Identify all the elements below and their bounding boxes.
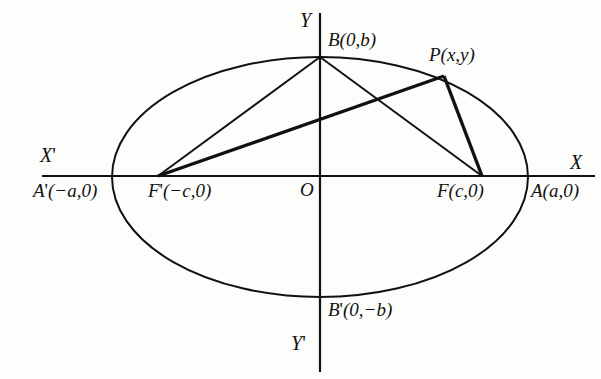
axis-label-x-negative-prime: ' xyxy=(52,144,56,166)
point-label-p-coords: (x,y) xyxy=(441,44,475,65)
point-label-b: B(0,b) xyxy=(328,30,376,49)
point-label-focus-f-coords: (c,0) xyxy=(449,180,484,201)
point-label-vertex-a-letter: A xyxy=(531,180,543,201)
axis-label-y-negative-prime: ' xyxy=(302,332,306,354)
point-label-focus-f-prime-letter: F xyxy=(148,180,160,201)
axis-label-x-negative-letter: X xyxy=(40,144,52,166)
point-label-b-coords: (0,b) xyxy=(340,29,376,50)
point-label-b-prime: B'(0,−b) xyxy=(328,300,392,319)
point-label-b-prime-coords: (0,−b) xyxy=(343,299,392,320)
point-label-origin: O xyxy=(300,180,314,199)
point-label-b-prime-letter: B xyxy=(328,299,340,320)
ellipse-figure: Y Y' X X' O B(0,b) B'(0,−b) P(x,y) F(c,0… xyxy=(0,0,601,379)
segment-fprime-to-b xyxy=(158,57,320,176)
axis-label-x-negative: X' xyxy=(40,145,56,165)
axis-label-y-positive: Y xyxy=(300,10,311,30)
point-label-b-letter: B xyxy=(328,29,340,50)
point-label-vertex-a-prime-coords: (−a,0) xyxy=(48,180,97,201)
point-label-focus-f-prime-coords: (−c,0) xyxy=(163,180,211,201)
point-label-p-letter: P xyxy=(429,44,441,65)
point-label-p: P(x,y) xyxy=(429,45,475,64)
point-label-vertex-a: A(a,0) xyxy=(531,181,579,200)
point-label-vertex-a-prime: A'(−a,0) xyxy=(33,181,97,200)
point-label-focus-f-prime: F'(−c,0) xyxy=(148,181,211,200)
axis-label-y-negative-letter: Y xyxy=(291,332,302,354)
point-label-vertex-a-coords: (a,0) xyxy=(543,180,579,201)
axis-label-x-positive: X xyxy=(570,152,582,172)
point-label-focus-f-letter: F xyxy=(437,180,449,201)
point-label-vertex-a-prime-letter: A xyxy=(33,180,45,201)
segment-fprime-to-p xyxy=(158,76,444,176)
axis-label-y-negative: Y' xyxy=(291,333,306,353)
point-label-focus-f: F(c,0) xyxy=(437,181,484,200)
